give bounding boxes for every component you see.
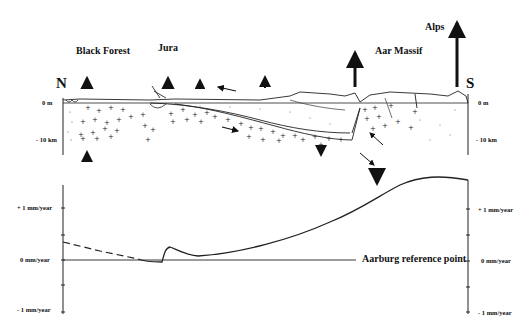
- svg-text:+: +: [260, 136, 266, 144]
- depth-tick-right-10km: - 10 km: [476, 136, 497, 143]
- region-label-aar-massif: Aar Massif: [375, 45, 422, 56]
- measured-uplift-curve: [138, 177, 468, 262]
- svg-text:+: +: [382, 122, 388, 130]
- rate-tick-left-0: 0 mm/year: [20, 256, 50, 263]
- svg-text:+: +: [94, 135, 100, 143]
- svg-text:+: +: [85, 104, 91, 112]
- subduction-arrow: [370, 133, 383, 145]
- svg-text:+: +: [170, 118, 176, 126]
- svg-text:+: +: [80, 118, 86, 126]
- motion-arrow-north: [218, 87, 236, 91]
- depth-tick-left-10km: - 10 km: [36, 136, 57, 143]
- svg-text:+: +: [128, 113, 134, 121]
- svg-text:+: +: [116, 116, 122, 124]
- svg-text:+: +: [364, 115, 370, 123]
- motion-arrow-south: [222, 127, 238, 131]
- svg-text:+: +: [108, 133, 114, 141]
- rate-tick-left-minus1: - 1 mm/year: [17, 306, 51, 313]
- svg-text:+: +: [246, 133, 252, 141]
- svg-text:+: +: [204, 109, 210, 117]
- svg-text:+: +: [362, 106, 368, 114]
- svg-text:+: +: [198, 118, 204, 126]
- svg-text:+: +: [248, 124, 254, 132]
- svg-text:+: +: [92, 116, 98, 124]
- svg-text:+: +: [372, 104, 378, 112]
- black-forest-feature: [66, 100, 78, 102]
- rate-tick-left-plus1: + 1 mm/year: [17, 204, 52, 211]
- depth-tick-right-0: 0 m: [478, 99, 488, 106]
- nappe-layer: [290, 100, 345, 110]
- fault-line: [415, 94, 417, 108]
- thrust-fault: [352, 108, 360, 140]
- inferred-uplift-curve: [63, 242, 138, 259]
- surface-topography: [63, 91, 468, 103]
- depth-tick-left-0: 0 m: [42, 99, 52, 106]
- svg-text:+: +: [114, 127, 120, 135]
- svg-text:+: +: [238, 120, 244, 128]
- region-label-jura: Jura: [158, 42, 178, 53]
- svg-text:+: +: [168, 110, 174, 118]
- region-label-black-forest: Black Forest: [76, 45, 130, 56]
- jura-fold: [150, 104, 166, 108]
- svg-text:+: +: [412, 108, 418, 116]
- svg-text:+: +: [212, 113, 218, 121]
- rate-tick-right-minus1: - 1 mm/year: [478, 309, 512, 316]
- svg-text:+: +: [276, 137, 282, 145]
- svg-text:+: +: [184, 116, 190, 124]
- region-label-alps: Alps: [425, 21, 444, 32]
- svg-text:+: +: [120, 106, 126, 114]
- svg-text:+: +: [108, 104, 114, 112]
- compass-south: S: [466, 75, 474, 92]
- compass-north: N: [56, 75, 67, 92]
- svg-text:+: +: [395, 118, 401, 126]
- svg-text:+: +: [145, 136, 151, 144]
- svg-text:+: +: [225, 116, 231, 124]
- rate-tick-right-0: 0 mm/year: [481, 257, 511, 264]
- svg-text:+: +: [142, 122, 148, 130]
- svg-text:+: +: [258, 125, 264, 133]
- svg-text:+: +: [102, 125, 108, 133]
- svg-text:+: +: [270, 128, 276, 136]
- svg-text:+: +: [96, 107, 102, 115]
- svg-text:+: +: [180, 106, 186, 114]
- svg-text:+: +: [312, 133, 318, 141]
- svg-text:+: +: [370, 125, 376, 133]
- basement-crosses: ++++ +++++ +++++ +++++ +++++ +++++ +++++…: [78, 102, 418, 149]
- svg-text:+: +: [80, 135, 86, 143]
- svg-text:+: +: [292, 132, 298, 140]
- reference-point-label: Aarburg reference point: [362, 253, 466, 264]
- subduction-arrow: [360, 153, 374, 165]
- rate-tick-right-plus1: + 1 mm/year: [478, 206, 513, 213]
- svg-text:+: +: [408, 124, 414, 132]
- svg-text:+: +: [326, 135, 332, 143]
- svg-text:+: +: [300, 136, 306, 144]
- thrust-arrow: [154, 91, 166, 98]
- svg-text:+: +: [376, 113, 382, 121]
- svg-text:+: +: [338, 136, 344, 144]
- svg-text:+: +: [140, 111, 146, 119]
- svg-text:+: +: [150, 126, 156, 134]
